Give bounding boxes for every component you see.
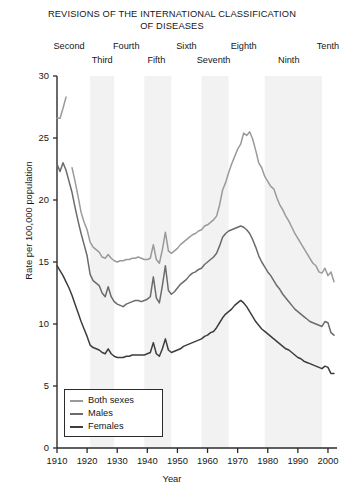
chart-legend: Both sexes Males Females xyxy=(64,389,163,437)
plot-canvas xyxy=(0,0,344,499)
series-line-both-sexes xyxy=(57,97,66,118)
legend-swatch-males xyxy=(70,413,83,415)
legend-item-males: Males xyxy=(70,407,157,420)
legend-label-females: Females xyxy=(88,420,124,433)
chart-figure: REVISIONS OF THE INTERNATIONAL CLASSIFIC… xyxy=(0,0,344,499)
legend-label-both-sexes: Both sexes xyxy=(88,394,134,407)
legend-swatch-females xyxy=(70,426,83,428)
legend-swatch-both-sexes xyxy=(70,400,83,402)
legend-item-both-sexes: Both sexes xyxy=(70,394,157,407)
legend-item-females: Females xyxy=(70,420,157,433)
revision-band-seventh xyxy=(202,76,229,448)
legend-label-males: Males xyxy=(88,407,113,420)
revision-band-ninth xyxy=(265,76,322,448)
figure-caption xyxy=(10,489,340,498)
